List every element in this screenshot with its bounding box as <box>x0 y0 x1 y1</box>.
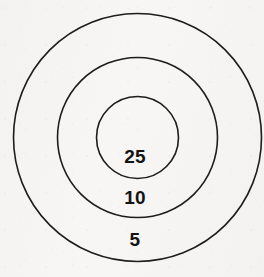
inner-ring-label-25: 25 <box>124 146 146 167</box>
target-diagram-figure: 25 10 5 <box>0 0 264 277</box>
middle-ring-label-10: 10 <box>124 187 146 208</box>
outer-ring-label-5: 5 <box>130 229 141 250</box>
outer-ring-circle <box>14 14 262 262</box>
concentric-target-svg: 25 10 5 <box>0 0 264 277</box>
